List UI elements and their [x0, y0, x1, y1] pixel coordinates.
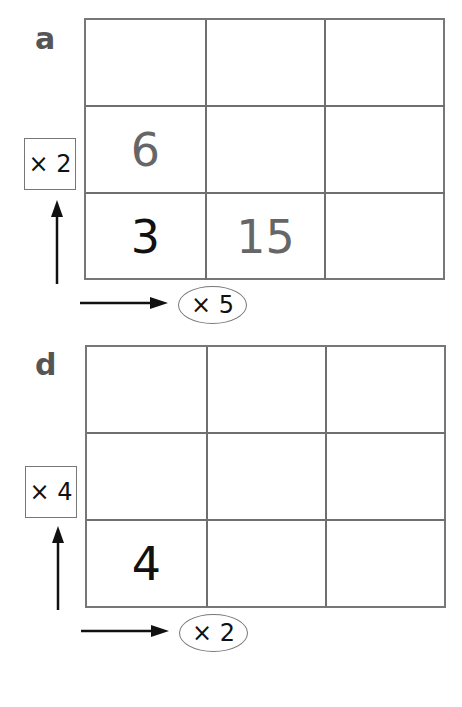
multiplication-grid: 6 3 15 — [84, 18, 445, 280]
grid-cell[interactable] — [207, 107, 326, 194]
grid-cell[interactable] — [86, 20, 207, 107]
grid-cell[interactable] — [208, 521, 327, 607]
grid-cell[interactable] — [326, 194, 445, 280]
grid-cell[interactable] — [327, 521, 446, 607]
grid-cell[interactable]: 6 — [86, 107, 207, 194]
grid-cell[interactable] — [207, 20, 326, 107]
column-multiplier-oval: × 2 — [179, 614, 248, 652]
grid-cell[interactable] — [326, 107, 445, 194]
column-multiplier-oval: × 5 — [178, 286, 247, 324]
row-multiplier-box: × 2 — [24, 138, 76, 190]
grid-cell[interactable] — [87, 347, 208, 434]
grid-cell: 4 — [87, 521, 208, 607]
grid-cell[interactable] — [327, 347, 446, 434]
row-multiplier-box: × 4 — [25, 466, 77, 518]
arrow-up-icon — [50, 200, 66, 286]
grid-cell[interactable] — [87, 434, 208, 521]
grid-cell[interactable] — [208, 347, 327, 434]
grid-cell: 3 — [86, 194, 207, 280]
grid-cell[interactable] — [327, 434, 446, 521]
grid-cell[interactable]: 15 — [207, 194, 326, 280]
arrow-right-icon — [80, 295, 170, 311]
grid-cell[interactable] — [208, 434, 327, 521]
arrow-right-icon — [81, 623, 171, 639]
puzzle-label: d — [35, 350, 56, 380]
arrow-up-icon — [51, 526, 67, 612]
puzzle-label: a — [35, 24, 55, 54]
grid-cell[interactable] — [326, 20, 445, 107]
multiplication-grid: 4 — [85, 345, 446, 608]
